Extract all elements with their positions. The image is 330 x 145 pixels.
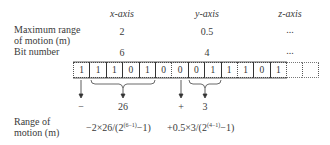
range-label-line2: motion (m) [14,128,59,138]
y-range-formula: +0.5×3/(2(4−1)−1) [167,122,234,133]
x-magnitude: 26 [118,101,128,112]
x-sign: − [78,101,84,112]
y-sign: + [178,101,184,112]
y-magnitude-brace [189,80,221,88]
y-magnitude: 3 [203,101,208,112]
range-label-line1: Range of [14,117,50,127]
x-range-formula: −2×26/(2(6−1)−1) [86,122,151,133]
x-magnitude-brace [91,80,155,88]
